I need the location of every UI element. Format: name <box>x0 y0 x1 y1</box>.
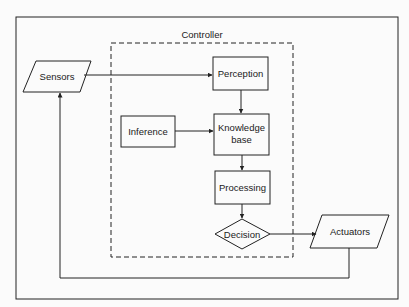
svg-text:Sensors: Sensors <box>40 71 75 82</box>
svg-text:base: base <box>231 134 252 145</box>
node-actuators: Actuators <box>310 215 389 248</box>
svg-text:Decision: Decision <box>224 229 260 240</box>
svg-text:Perception: Perception <box>218 68 263 79</box>
controller-diagram: Controller Sensors Perception Knowledge … <box>0 0 409 307</box>
node-sensors: Sensors <box>23 61 91 92</box>
controller-label: Controller <box>181 29 222 40</box>
svg-text:Inference: Inference <box>128 126 168 137</box>
node-processing: Processing <box>215 171 270 204</box>
svg-text:Processing: Processing <box>219 182 266 193</box>
edge-actuators-sensors-feedback <box>60 93 349 278</box>
svg-text:Knowledge: Knowledge <box>218 122 265 133</box>
svg-text:Actuators: Actuators <box>330 226 370 237</box>
node-inference: Inference <box>121 116 175 147</box>
node-decision: Decision <box>215 219 270 249</box>
node-perception: Perception <box>213 57 268 90</box>
node-knowledge-base: Knowledge base <box>214 114 269 155</box>
